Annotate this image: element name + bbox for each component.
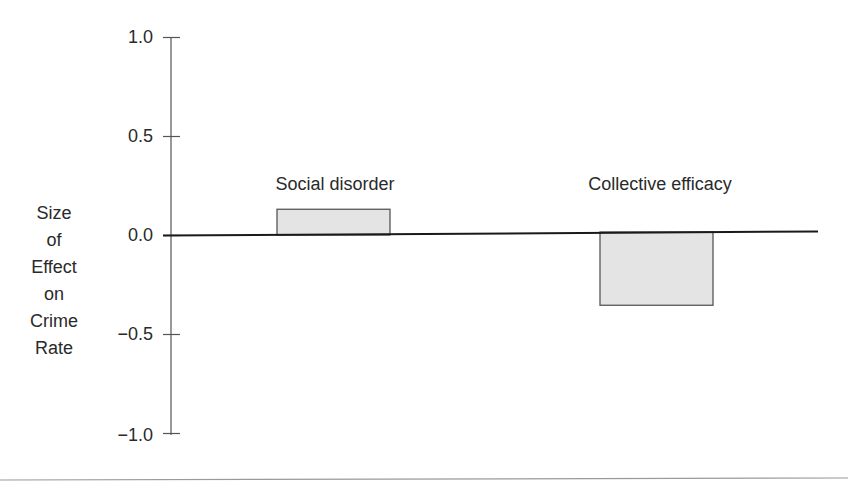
y-tick-label: −0.5	[117, 324, 153, 344]
y-tick-label: 0.5	[128, 126, 153, 146]
bar-collective-efficacy	[600, 232, 713, 305]
zero-baseline	[163, 232, 818, 236]
y-axis-label-line: of	[14, 227, 94, 254]
y-axis-label-line: Size	[14, 200, 94, 227]
y-tick-label: −1.0	[117, 425, 153, 445]
category-label-social-disorder: Social disorder	[275, 173, 394, 195]
y-axis-label: Size of Effect on Crime Rate	[14, 200, 94, 362]
y-axis-label-line: Crime	[14, 308, 94, 335]
bottom-rule	[0, 478, 848, 480]
bars	[277, 209, 713, 305]
y-axis-label-line: on	[14, 281, 94, 308]
category-label-collective-efficacy: Collective efficacy	[588, 173, 732, 195]
y-tick-label: 1.0	[128, 27, 153, 47]
bar-chart: Size of Effect on Crime Rate 1.0 0.5 0.0…	[0, 0, 848, 489]
y-axis-label-line: Rate	[14, 335, 94, 362]
y-axis-label-line: Effect	[14, 254, 94, 281]
y-tick-label: 0.0	[128, 225, 153, 245]
bar-social-disorder	[277, 209, 390, 235]
